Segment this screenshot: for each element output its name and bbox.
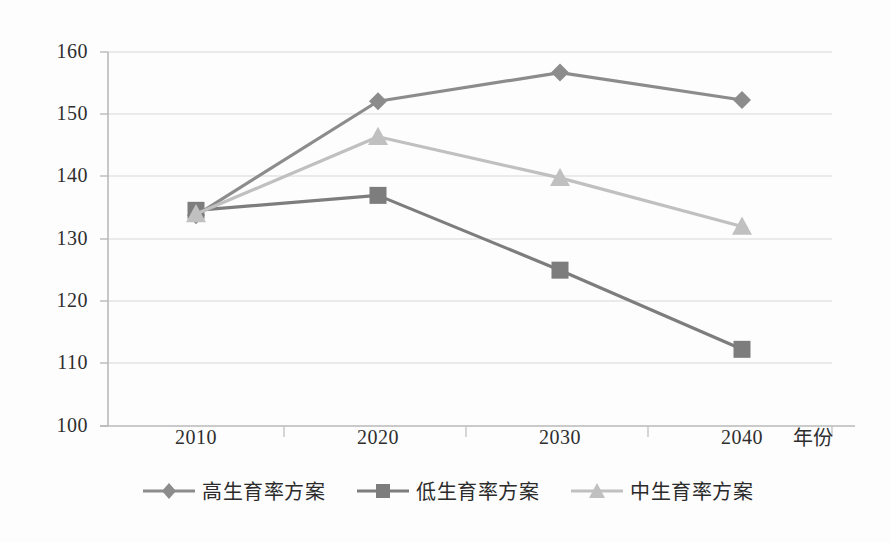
plot-area [0, 0, 890, 543]
y-tick-label-160: 160 [28, 40, 88, 63]
y-tick-label-140: 140 [28, 164, 88, 187]
data-point-marker [368, 127, 388, 145]
data-point-marker [369, 92, 387, 110]
y-tick-label-120: 120 [28, 289, 88, 312]
series-3 [186, 127, 752, 235]
series-1 [187, 64, 751, 225]
data-point-marker [734, 341, 751, 358]
legend-label-low-fertility: 低生育率方案 [416, 476, 539, 505]
y-tick-label-130: 130 [28, 227, 88, 250]
data-point-marker [552, 262, 569, 279]
x-tick-label-2010: 2010 [151, 426, 241, 449]
x-tick-label-2030: 2030 [515, 426, 605, 449]
x-tick-label-2040: 2040 [697, 426, 787, 449]
legend-label-medium-fertility: 中生育率方案 [630, 476, 753, 505]
diamond-marker-icon [143, 480, 195, 502]
series-layer [186, 64, 752, 358]
data-point-marker [551, 64, 569, 82]
line-chart: 160 150 140 130 120 110 100 2010 2020 20… [0, 0, 890, 543]
series-2 [188, 187, 751, 358]
x-tick-label-2020: 2020 [333, 426, 423, 449]
legend-item-medium-fertility[interactable]: 中生育率方案 [571, 476, 753, 505]
data-point-marker [733, 91, 751, 109]
y-tick-label-150: 150 [28, 102, 88, 125]
chart-legend: 高生育率方案 低生育率方案 中生育率方案 [0, 476, 890, 505]
legend-item-low-fertility[interactable]: 低生育率方案 [357, 476, 539, 505]
y-tick-label-100: 100 [28, 414, 88, 437]
y-tick-marks [100, 52, 108, 426]
triangle-marker-icon [571, 480, 623, 502]
legend-item-high-fertility[interactable]: 高生育率方案 [143, 476, 325, 505]
square-marker-icon [357, 480, 409, 502]
legend-label-high-fertility: 高生育率方案 [202, 476, 325, 505]
x-axis-title: 年份 [793, 422, 833, 451]
y-tick-label-110: 110 [28, 351, 88, 374]
data-point-marker [370, 187, 387, 204]
